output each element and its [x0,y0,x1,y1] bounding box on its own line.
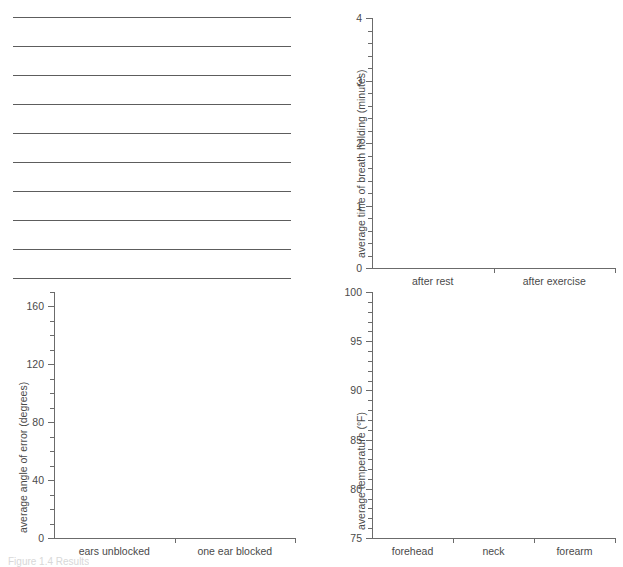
y-axis-minor-tick [50,466,54,467]
y-axis-major-tick [48,306,54,307]
x-axis-tick [175,538,176,543]
y-axis-minor-tick [50,495,54,496]
writing-line [13,75,291,76]
writing-line [13,17,291,18]
y-axis-tick-label: 3 [332,76,362,87]
y-axis-minor-tick [368,43,372,44]
y-axis-minor-tick [50,437,54,438]
y-axis-tick-label: 120 [14,359,44,370]
y-axis-minor-tick [368,312,372,313]
y-axis-major-tick [366,341,372,342]
x-axis-category-label: one ear blocked [165,546,305,557]
y-axis-major-tick [48,538,54,539]
x-axis-line [372,538,615,539]
y-axis-minor-tick [50,509,54,510]
y-axis-line [372,18,373,268]
y-axis-minor-tick [50,335,54,336]
x-axis-tick [494,268,495,273]
y-axis-minor-tick [368,430,372,431]
y-axis-minor-tick [50,451,54,452]
y-axis-minor-tick [368,499,372,500]
y-axis-minor-tick [368,218,372,219]
y-axis-minor-tick [368,322,372,323]
y-axis-major-tick [366,489,372,490]
y-axis-tick-label: 80 [14,417,44,428]
chart-angle-y-axis-label: average angle of error (degrees) [18,382,29,533]
y-axis-major-tick [48,364,54,365]
y-axis-major-tick [366,390,372,391]
chart-breath-y-axis-label: average time of breath holding (minutes) [356,69,367,258]
x-axis-tick [453,538,454,543]
y-axis-tick-label: 4 [332,13,362,24]
y-axis-minor-tick [50,292,54,293]
y-axis-minor-tick [368,181,372,182]
x-axis-tick [615,538,616,543]
writing-line [13,162,291,163]
y-axis-tick-label: 160 [14,301,44,312]
y-axis-minor-tick [368,231,372,232]
y-axis-minor-tick [50,321,54,322]
y-axis-tick-label: 85 [332,435,362,446]
y-axis-minor-tick [368,459,372,460]
writing-line [13,191,291,192]
y-axis-minor-tick [368,381,372,382]
y-axis-tick-label: 40 [14,475,44,486]
y-axis-minor-tick [368,371,372,372]
y-axis-minor-tick [368,518,372,519]
y-axis-tick-label: 90 [332,385,362,396]
y-axis-tick-label: 75 [332,533,362,544]
y-axis-minor-tick [368,331,372,332]
y-axis-minor-tick [50,393,54,394]
chart-temp-y-axis-label: average temperature (°F) [356,412,367,530]
y-axis-major-tick [366,440,372,441]
y-axis-tick-label: 2 [332,138,362,149]
y-axis-tick-label: 1 [332,201,362,212]
writing-line [13,249,291,250]
x-axis-category-label: forearm [505,546,623,557]
y-axis-minor-tick [368,361,372,362]
y-axis-tick-label: 80 [332,484,362,495]
y-axis-minor-tick [368,479,372,480]
y-axis-minor-tick [368,131,372,132]
answer-writing-lines [0,0,320,290]
y-axis-minor-tick [368,193,372,194]
y-axis-minor-tick [368,31,372,32]
y-axis-tick-label: 0 [14,533,44,544]
writing-line [13,278,291,279]
y-axis-minor-tick [368,400,372,401]
y-axis-minor-tick [368,93,372,94]
y-axis-minor-tick [368,156,372,157]
chart-angle-of-error: average angle of error (degrees) 0408012… [0,285,320,567]
y-axis-minor-tick [368,469,372,470]
y-axis-minor-tick [368,118,372,119]
y-axis-minor-tick [50,379,54,380]
y-axis-major-tick [366,268,372,269]
y-axis-major-tick [366,538,372,539]
y-axis-minor-tick [50,350,54,351]
x-axis-tick [615,268,616,273]
y-axis-tick-label: 0 [332,263,362,274]
y-axis-major-tick [366,143,372,144]
x-axis-tick [534,538,535,543]
y-axis-minor-tick [368,168,372,169]
writing-line [13,104,291,105]
y-axis-major-tick [366,206,372,207]
figure-caption: Figure 1.4 Results [8,556,89,567]
y-axis-tick-label: 100 [332,287,362,298]
y-axis-major-tick [366,18,372,19]
y-axis-minor-tick [368,106,372,107]
chart-breath-holding: average time of breath holding (minutes)… [340,0,623,290]
y-axis-minor-tick [368,302,372,303]
y-axis-minor-tick [368,243,372,244]
y-axis-minor-tick [368,68,372,69]
y-axis-minor-tick [368,56,372,57]
y-axis-major-tick [48,480,54,481]
writing-line [13,46,291,47]
y-axis-tick-label: 95 [332,336,362,347]
y-axis-minor-tick [368,410,372,411]
y-axis-line [372,292,373,538]
writing-line [13,220,291,221]
writing-line [13,133,291,134]
y-axis-line [54,292,55,538]
y-axis-major-tick [48,422,54,423]
